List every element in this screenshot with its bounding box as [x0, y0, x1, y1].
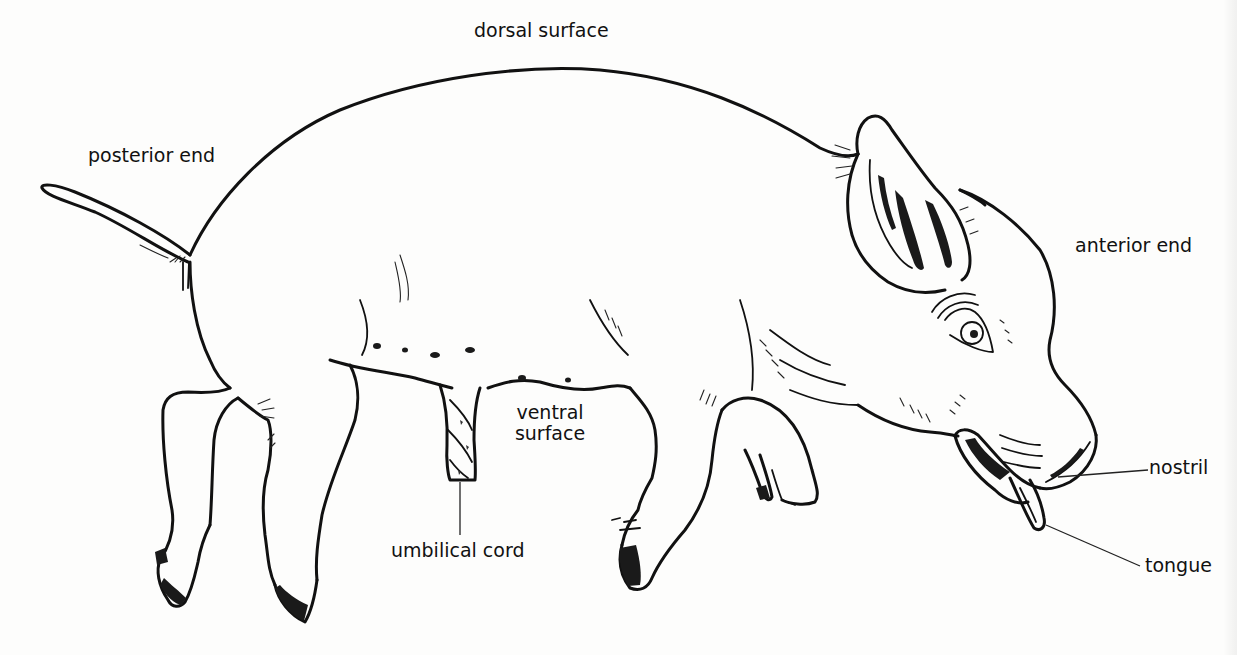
label-ventral-surface-line1: ventral	[514, 402, 586, 423]
label-dorsal-surface: dorsal surface	[474, 20, 609, 41]
head	[740, 116, 1096, 529]
nostril-leader	[1058, 470, 1148, 477]
label-anterior-end: anterior end	[1075, 235, 1192, 256]
label-ventral-surface: ventral surface	[514, 402, 586, 444]
front-legs	[612, 388, 817, 590]
label-tongue: tongue	[1145, 555, 1212, 576]
label-posterior-end: posterior end	[88, 145, 215, 166]
label-nostril: nostril	[1149, 457, 1208, 478]
label-umbilical-cord: umbilical cord	[391, 540, 524, 561]
label-ventral-surface-line2: surface	[514, 423, 586, 444]
body-outline	[190, 69, 858, 390]
pig-illustration	[0, 0, 1237, 655]
fetal-pig-diagram: dorsal surface posterior end anterior en…	[0, 0, 1237, 655]
hind-legs	[155, 365, 358, 622]
umbilical-cord	[440, 385, 480, 480]
tail	[42, 185, 190, 290]
tongue-leader	[1046, 525, 1140, 566]
